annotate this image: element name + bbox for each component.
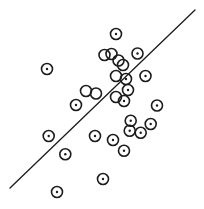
data-point-circle [113,55,124,66]
data-point-marker [140,71,151,82]
data-point-center-dot [64,153,66,155]
data-point-center-dot [125,78,127,80]
data-point-marker [71,100,82,111]
data-point-marker [90,131,101,142]
data-point-center-dot [112,139,114,141]
data-point-center-dot [130,120,132,122]
data-point-marker [135,127,146,138]
data-point-marker [118,60,129,71]
data-point-center-dot [123,150,125,152]
data-point-marker [106,49,117,60]
data-point-circle [118,60,129,71]
data-point-marker [91,88,102,99]
data-point-center-dot [150,123,152,125]
data-point-center-dot [129,130,131,132]
scatter-plot [0,0,204,209]
data-point-marker [113,55,124,66]
scatter-plot-figure [0,0,204,209]
data-point-center-dot [127,89,129,91]
data-point-marker [132,48,143,59]
data-point-center-dot [136,52,138,54]
data-point-center-dot [102,178,104,180]
data-point-marker [52,187,63,198]
data-point-center-dot [48,135,50,137]
data-point-marker [108,135,119,146]
data-point-center-dot [144,75,146,77]
data-point-marker [60,149,71,160]
data-point-center-dot [156,104,158,106]
data-point-circle [106,49,117,60]
data-point-center-dot [123,100,125,102]
data-point-circle [91,88,102,99]
data-point-center-dot [94,135,96,137]
data-point-center-dot [56,191,58,193]
data-point-marker [119,145,130,156]
data-point-marker [111,29,122,40]
trend-line [10,10,195,188]
data-point-center-dot [140,132,142,134]
data-point-marker [98,174,109,185]
data-point-marker [152,100,163,111]
data-point-marker [123,85,134,96]
data-point-center-dot [75,104,77,106]
data-point-center-dot [115,33,117,35]
data-point-center-dot [46,68,48,70]
data-point-marker [145,119,156,130]
data-point-marker [43,131,54,142]
data-point-marker [121,74,132,85]
data-point-marker [42,64,53,75]
